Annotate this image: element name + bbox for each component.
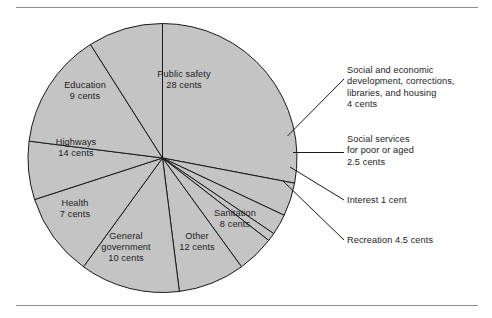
callout-label-recreation: Recreation 4.5 cents	[347, 235, 492, 246]
slice-label-education: Education 9 cents	[49, 80, 121, 102]
callout-label-social-economic-development: Social and economic development, correct…	[347, 65, 487, 111]
slice-label-highways: Highways 14 cents	[38, 137, 114, 159]
callout-label-social-services: Social services for poor or aged 2.5 cen…	[347, 134, 475, 168]
pie-slice-public-safety[interactable]	[163, 24, 298, 184]
leader-line-recreation	[283, 181, 344, 240]
slice-label-health: Health 7 cents	[40, 198, 110, 220]
slice-label-sanitation: Sanitation 8 cents	[199, 208, 271, 230]
slice-label-other: Other 12 cents	[166, 231, 228, 253]
callout-label-interest: Interest 1 cent	[347, 195, 475, 206]
pie-chart-figure: Public safety 28 cents Education 9 cents…	[0, 0, 492, 318]
slice-label-public-safety: Public safety 28 cents	[143, 69, 225, 91]
slice-label-general-government: General government 10 cents	[83, 231, 169, 265]
leader-line-social-economic	[288, 79, 345, 136]
